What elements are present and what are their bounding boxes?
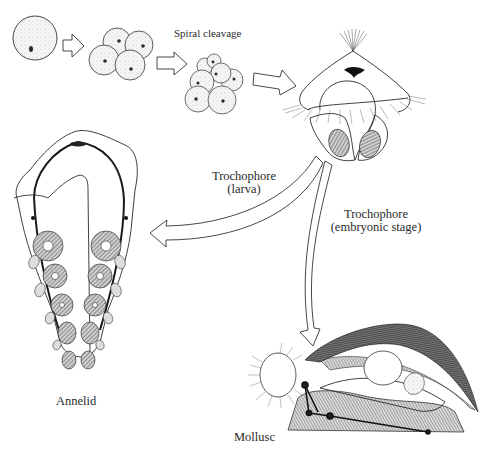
label-spiral-cleavage: Spiral cleavage	[174, 27, 242, 40]
arrow-8cell-to-trochophore	[253, 70, 296, 95]
trochophore	[283, 29, 426, 161]
label-trochophore-larva: Trochophore (larva)	[192, 170, 296, 196]
mollusc	[248, 324, 478, 434]
label-mollusc: Mollusc	[234, 431, 275, 444]
arrow-egg-to-4cell	[63, 34, 84, 57]
label-trochophore-larva-line2: (larva)	[192, 183, 296, 196]
arrow-4cell-to-8cell	[157, 52, 187, 75]
label-trochophore-embryonic: Trochophore (embryonic stage)	[320, 208, 432, 234]
four-cell-stage	[89, 28, 153, 80]
annelid	[14, 130, 137, 369]
spiral-cleavage-stage	[185, 54, 243, 114]
label-annelid: Annelid	[56, 395, 96, 408]
label-trochophore-embryonic-line2: (embryonic stage)	[320, 221, 432, 234]
egg-cell	[13, 16, 57, 60]
